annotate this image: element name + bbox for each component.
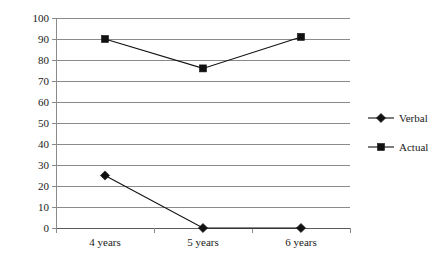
data-point-verbal-0 (100, 171, 109, 180)
x-axis-label-1: 5 years (187, 237, 218, 248)
x-tickmark-1 (154, 228, 155, 233)
legend-item-actual: Actual (368, 141, 428, 153)
legend-label-verbal: Verbal (399, 113, 428, 124)
square-marker-icon (368, 141, 394, 153)
diamond-marker-icon (368, 112, 394, 124)
data-point-actual-0 (102, 36, 109, 43)
data-point-actual-1 (200, 65, 207, 72)
line-chart: 0102030405060708090100 4 years5 years6 y… (0, 0, 436, 260)
x-axis-label-0: 4 years (89, 237, 120, 248)
legend-item-verbal: Verbal (368, 112, 428, 124)
data-point-actual-2 (298, 33, 305, 40)
x-axis-label-2: 6 years (285, 237, 316, 248)
x-tickmark-3 (350, 228, 351, 233)
legend: VerbalActual (368, 112, 428, 153)
data-point-verbal-2 (296, 223, 305, 232)
series-layer (56, 18, 350, 228)
x-tickmark-2 (252, 228, 253, 233)
series-actual (102, 33, 305, 72)
legend-label-actual: Actual (399, 142, 428, 153)
series-line-actual (105, 37, 301, 69)
series-line-verbal (105, 176, 301, 229)
plot-area: 0102030405060708090100 4 years5 years6 y… (56, 18, 350, 228)
data-point-verbal-1 (198, 223, 207, 232)
series-verbal (100, 171, 305, 233)
x-tickmark-0 (56, 228, 57, 233)
